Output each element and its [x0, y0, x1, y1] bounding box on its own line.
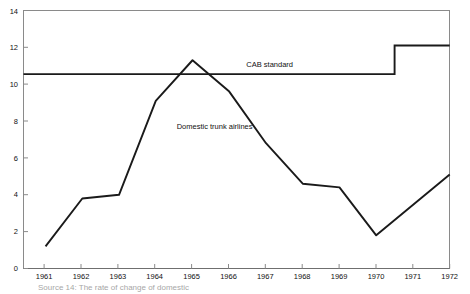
- x-tick-label-1972: 1972: [441, 272, 458, 281]
- x-tick-label-1964: 1964: [146, 272, 163, 281]
- cab-standard-line: [24, 46, 450, 75]
- y-tick-label-0: 0: [14, 264, 18, 273]
- annotation-domestic-trunk-airlines: Domestic trunk airlines: [177, 122, 253, 131]
- x-axis-ticks: [44, 264, 450, 269]
- annotation-cab-standard: CAB standard: [246, 60, 293, 69]
- x-tick-label-1969: 1969: [331, 272, 348, 281]
- x-tick-label-1968: 1968: [294, 272, 311, 281]
- x-tick-label-1971: 1971: [404, 272, 421, 281]
- domestic-trunk-airlines-line: [46, 60, 450, 246]
- x-tick-label-1962: 1962: [73, 272, 90, 281]
- plot-frame: [23, 11, 450, 269]
- y-tick-label-8: 8: [14, 117, 18, 126]
- x-tick-label-1967: 1967: [257, 272, 274, 281]
- y-tick-label-6: 6: [14, 154, 18, 163]
- y-tick-label-14: 14: [10, 7, 18, 16]
- y-tick-label-2: 2: [14, 227, 18, 236]
- y-axis-tick-labels: 0 2 4 6 8 10 12 14: [10, 7, 18, 274]
- x-tick-label-1970: 1970: [368, 272, 385, 281]
- y-tick-label-12: 12: [10, 43, 18, 52]
- y-tick-label-4: 4: [14, 190, 18, 199]
- line-chart: 0 2 4 6 8 10 12 14 1961 1962 1: [0, 0, 470, 294]
- x-tick-label-1965: 1965: [183, 272, 200, 281]
- x-axis-tick-labels: 1961 1962 1963 1964 1965 1966 1967 1968 …: [36, 272, 458, 281]
- chart-container: 0 2 4 6 8 10 12 14 1961 1962 1: [0, 0, 470, 294]
- y-tick-label-10: 10: [10, 80, 18, 89]
- x-tick-label-1961: 1961: [36, 272, 53, 281]
- x-tick-label-1963: 1963: [110, 272, 127, 281]
- x-tick-label-1966: 1966: [220, 272, 237, 281]
- y-axis-ticks: [24, 11, 29, 269]
- figure-caption: Source 14: The rate of change of domesti…: [38, 283, 189, 292]
